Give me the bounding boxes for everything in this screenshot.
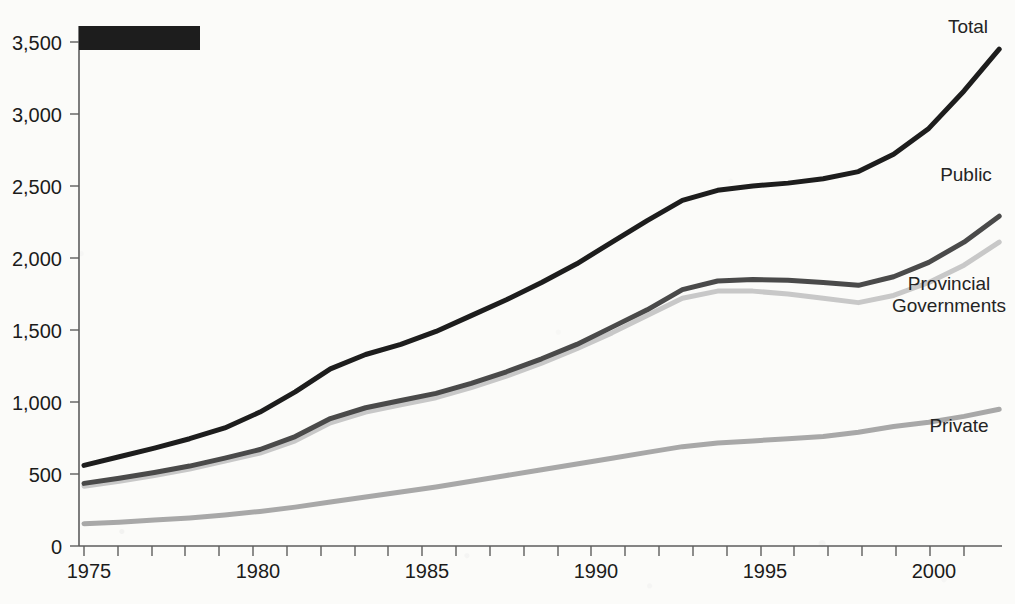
series-line-total — [84, 49, 999, 465]
series-line-public — [84, 216, 999, 483]
line-chart: 3,500 3,000 2,500 2,000 1,500 1,000 500 … — [0, 0, 1015, 604]
y-axis: 3,500 3,000 2,500 2,000 1,500 1,000 500 … — [12, 26, 79, 558]
ytick-label-0: 0 — [51, 536, 62, 558]
xtick-label-1980: 1980 — [236, 560, 281, 582]
series-label-provincial-line2: Governments — [892, 295, 1006, 316]
xtick-label-2000: 2000 — [912, 560, 957, 582]
series-line-private — [84, 409, 999, 523]
data-series-group — [84, 49, 999, 523]
series-line-provincial-governments — [84, 242, 999, 486]
xtick-label-1985: 1985 — [405, 560, 450, 582]
ytick-label-500: 500 — [29, 464, 62, 486]
xtick-label-1975: 1975 — [67, 560, 112, 582]
series-label-private: Private — [929, 415, 988, 436]
ytick-label-3000: 3,000 — [12, 104, 62, 126]
ytick-label-1000: 1,000 — [12, 392, 62, 414]
xtick-label-1990: 1990 — [574, 560, 619, 582]
series-label-provincial-line1: Provincial — [908, 273, 990, 294]
ytick-label-1500: 1,500 — [12, 320, 62, 342]
chart-page: 3,500 3,000 2,500 2,000 1,500 1,000 500 … — [0, 0, 1015, 604]
x-axis: 1975 1980 1985 1990 1995 2000 — [67, 546, 1002, 582]
ytick-label-3500: 3,500 — [12, 32, 62, 54]
redacted-title-bar — [79, 26, 200, 50]
ytick-label-2500: 2,500 — [12, 176, 62, 198]
ytick-label-2000: 2,000 — [12, 248, 62, 270]
xtick-label-1995: 1995 — [743, 560, 788, 582]
series-label-total: Total — [948, 16, 988, 37]
series-label-public: Public — [940, 164, 992, 185]
